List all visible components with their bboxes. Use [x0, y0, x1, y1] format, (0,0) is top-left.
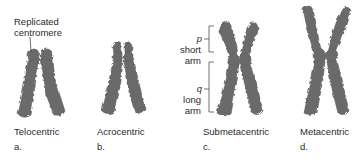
panel-d-name: Metacentric — [300, 126, 349, 137]
p-label: p — [197, 34, 202, 44]
panel-c-letter: c. — [203, 141, 210, 152]
telocentric-chromosome — [17, 48, 64, 116]
long-arm-label-2: arm — [185, 106, 201, 116]
panel-d-letter: d. — [300, 141, 308, 152]
short-arm-label-2: arm — [185, 56, 201, 66]
metacentric-chromosome — [302, 5, 350, 115]
submetacentric-chromosome — [216, 22, 262, 115]
short-arm-label-1: short — [180, 45, 201, 55]
arm-brackets — [204, 26, 214, 112]
centromere-label-line1: Replicated — [14, 16, 59, 27]
panel-a-letter: a. — [14, 141, 22, 152]
panel-c-name: Submetacentric — [203, 126, 269, 137]
q-label: q — [197, 84, 202, 94]
panel-b-name: Acrocentric — [97, 126, 145, 137]
panel-b-letter: b. — [97, 141, 105, 152]
centromere-label-line2: centromere — [14, 27, 62, 38]
panel-a-name: Telocentric — [14, 126, 59, 137]
long-arm-label-1: long — [183, 95, 201, 105]
acrocentric-chromosome — [101, 42, 145, 114]
